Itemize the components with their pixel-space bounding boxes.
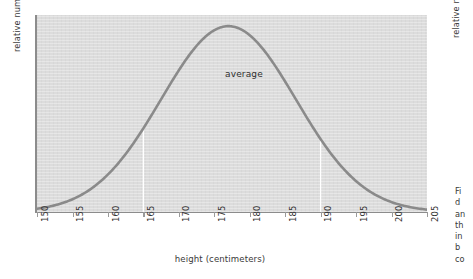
x-tick-180 xyxy=(250,212,251,217)
average-annotation: average xyxy=(225,69,263,79)
caption-line-0: Fi xyxy=(455,186,473,197)
x-tick-label-190: 190 xyxy=(324,205,333,222)
caption-line-4: in xyxy=(455,231,473,242)
x-tick-160 xyxy=(108,212,109,217)
plot-area: average xyxy=(37,15,427,212)
x-tick-label-200: 200 xyxy=(395,205,404,222)
x-tick-label-195: 195 xyxy=(360,205,369,222)
caption-line-6: co xyxy=(455,254,473,265)
x-tick-175 xyxy=(214,212,215,217)
marker-lines xyxy=(143,128,320,212)
caption-line-2: an xyxy=(455,209,473,220)
x-tick-label-160: 160 xyxy=(112,205,121,222)
x-tick-150 xyxy=(37,212,38,217)
x-tick-label-205: 205 xyxy=(431,205,440,222)
x-tick-185 xyxy=(285,212,286,217)
right-y-axis-label: relative number of people xyxy=(451,0,465,38)
caption-line-5: b xyxy=(455,242,473,253)
x-tick-155 xyxy=(73,212,74,217)
x-tick-170 xyxy=(179,212,180,217)
figure-page: relative number of people average height… xyxy=(0,0,473,279)
x-tick-label-185: 185 xyxy=(289,205,298,222)
x-tick-label-175: 175 xyxy=(218,205,227,222)
caption-line-1: d xyxy=(455,197,473,208)
x-tick-205 xyxy=(427,212,428,217)
x-tick-195 xyxy=(356,212,357,217)
x-tick-label-155: 155 xyxy=(76,205,85,222)
right-figure-caption: Fidanthinbco xyxy=(455,186,473,265)
x-tick-165 xyxy=(143,212,144,217)
x-tick-label-165: 165 xyxy=(147,205,156,222)
x-tick-200 xyxy=(392,212,393,217)
distribution-figure: relative number of people average height… xyxy=(0,0,432,279)
x-tick-label-180: 180 xyxy=(253,205,262,222)
y-axis-label: relative number of people xyxy=(12,0,26,52)
distribution-curve-svg xyxy=(37,15,427,212)
x-tick-label-170: 170 xyxy=(182,205,191,222)
x-axis-label: height (centimeters) xyxy=(145,254,295,264)
bell-curve-path xyxy=(37,26,427,209)
x-tick-190 xyxy=(321,212,322,217)
caption-line-3: th xyxy=(455,220,473,231)
x-tick-label-150: 150 xyxy=(41,205,50,222)
